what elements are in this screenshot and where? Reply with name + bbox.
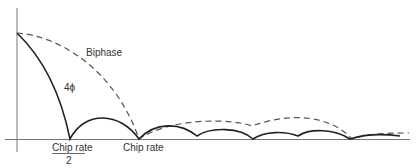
four-phase-label: 4ϕ <box>64 83 75 93</box>
biphase-label: Biphase <box>86 48 122 58</box>
half-chip-rate-denominator: 2 <box>66 156 72 166</box>
half-chip-rate-numerator: Chip rate <box>52 143 93 153</box>
chip-rate-label: Chip rate <box>123 143 164 153</box>
biphase-curve <box>17 33 409 139</box>
